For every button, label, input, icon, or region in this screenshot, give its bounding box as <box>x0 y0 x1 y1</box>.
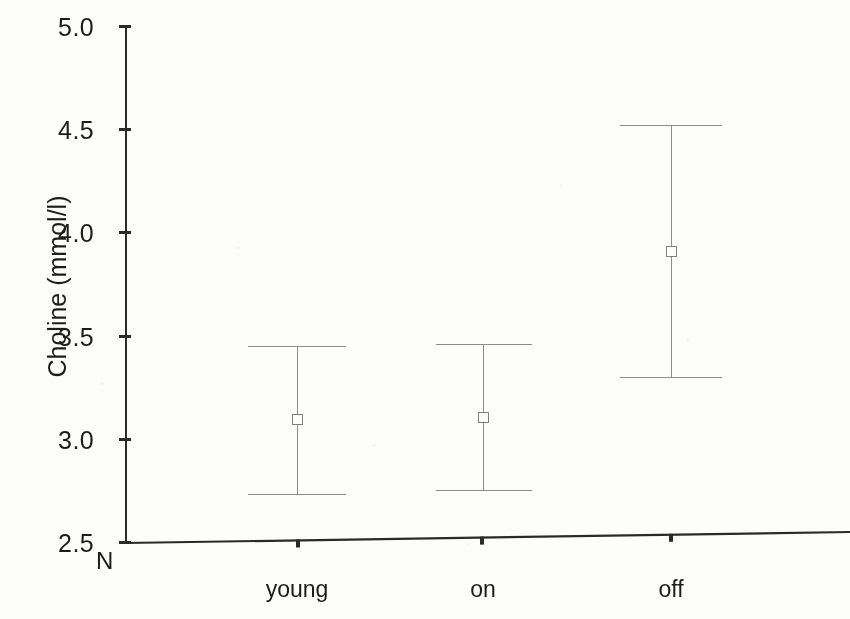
errorbar-cap-upper <box>436 344 532 345</box>
y-tick-mark <box>119 128 131 131</box>
y-tick-mark <box>119 231 131 234</box>
data-point-marker-on <box>478 412 489 423</box>
y-tick-label: 5.0 <box>58 13 94 42</box>
data-point-marker-off <box>666 246 677 257</box>
y-axis-line <box>125 26 127 543</box>
errorbar-cap-lower <box>248 494 346 495</box>
x-category-label-on: on <box>470 576 496 603</box>
errorbar-cap-upper <box>248 346 346 347</box>
y-tick-label: 3.0 <box>58 426 94 455</box>
error-bar-chart-figure: Choline (mmol/l) 5.0 4.5 4.0 3.5 3.0 2.5… <box>0 0 850 619</box>
y-tick-label: 2.5 <box>58 529 94 558</box>
y-axis-title: Choline (mmol/l) <box>43 127 72 447</box>
data-point-marker-young <box>292 414 303 425</box>
y-tick-mark <box>119 25 131 28</box>
y-tick-mark <box>119 438 131 441</box>
n-row-label: N <box>96 547 113 575</box>
y-tick-label: 3.5 <box>58 323 94 352</box>
x-axis-line <box>124 527 850 544</box>
y-tick-label: 4.5 <box>58 116 94 145</box>
y-tick-mark <box>119 335 131 338</box>
errorbar-cap-upper <box>620 125 722 126</box>
errorbar-cap-lower <box>436 490 532 491</box>
errorbar-cap-lower <box>620 377 722 378</box>
x-category-label-off: off <box>658 576 683 603</box>
x-category-label-young: young <box>266 576 329 603</box>
y-tick-label: 4.0 <box>58 219 94 248</box>
